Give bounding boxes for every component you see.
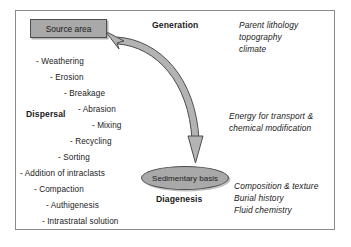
control-diagenesis-line-3: Fluid chemistry [234,205,292,216]
process-item-addition-of-intraclasts: - Addition of intraclasts [20,169,105,179]
control-dispersal-line-2: chemical modification [229,123,311,134]
process-item-breakage: - Breakage [64,89,105,99]
process-item-recycling: - Recycling [70,137,112,147]
process-item-mixing: - Mixing [92,121,121,131]
node-source-area-label: Source area [31,24,106,34]
node-source-area[interactable]: Source area [30,19,107,38]
control-generation-line-3: climate [239,44,266,55]
stage-label-dispersal: Dispersal [26,109,66,120]
process-item-authigenesis: - Authigenesis [46,201,99,211]
control-generation-line-1: Parent lithology [239,20,298,31]
stage-label-generation: Generation [152,20,198,31]
process-item-compaction: - Compaction [34,185,84,195]
control-diagenesis-line-2: Burial history [234,193,284,204]
control-generation-line-2: topography [239,32,282,43]
process-item-erosion: - Erosion [50,73,84,83]
process-item-sorting: - Sorting [58,153,90,163]
process-item-abrasion: - Abrasion [78,105,116,115]
node-sedimentary-basin[interactable]: Sedimentary basis [141,166,229,190]
node-sedimentary-basin-label: Sedimentary basis [142,174,228,183]
process-item-intrastratal-solution: - Intrastratal solution [42,217,118,227]
diagram-canvas: Source area Sedimentary basis Generation… [0,0,351,247]
stage-label-diagenesis: Diagenesis [156,194,202,205]
process-item-weathering: - Weathering [36,57,84,67]
control-diagenesis-line-1: Composition & texture [234,181,319,192]
control-dispersal-line-1: Energy for transport & [229,111,313,122]
